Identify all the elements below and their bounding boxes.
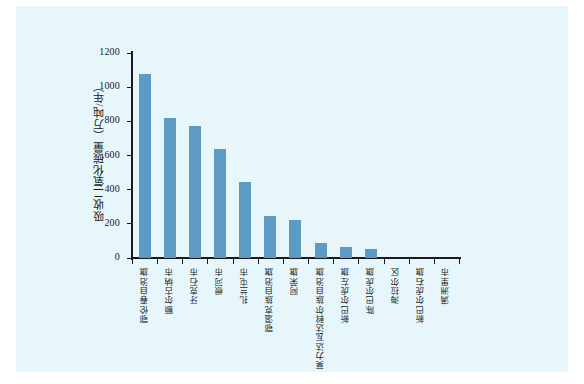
x-tick-mark (132, 259, 133, 264)
x-tick-label: 扎兰屯市 (233, 267, 258, 375)
x-tick-label: 满洲里市 (434, 267, 459, 375)
bar-slot (333, 53, 358, 258)
x-tick-label-text: 阿荣旗 (291, 267, 300, 295)
x-tick-label-text: 新巴尔虎右旗 (417, 267, 426, 323)
x-tick-label: 海拉尔区 (384, 267, 409, 375)
x-axis-labels: 鄂伦春自治旗额尔古纳市牙克石市根河市扎兰屯市鄂温克族自治旗阿荣旗莫力达瓦达斡尔族… (132, 267, 459, 377)
y-tick-label: 600 (104, 149, 120, 160)
x-tick-label: 牙克石市 (182, 267, 207, 375)
x-tick-mark (207, 259, 208, 264)
bar-slot (409, 53, 434, 258)
y-tick-label: 0 (115, 251, 120, 262)
bar[interactable] (214, 149, 226, 258)
x-axis-ticks (132, 259, 459, 264)
x-tick-label: 陈巴尔虎旗 (358, 267, 383, 375)
x-tick-label: 阿荣旗 (283, 267, 308, 375)
bar-slot (358, 53, 383, 258)
x-tick-label: 额尔古纳市 (157, 267, 182, 375)
x-tick-label-text: 满洲里市 (442, 267, 451, 304)
bar-slot (233, 53, 258, 258)
bar-slot (434, 53, 459, 258)
x-tick-mark (258, 259, 259, 264)
y-tick-label: 200 (104, 217, 120, 228)
bar-slot (308, 53, 333, 258)
bar-slot (207, 53, 232, 258)
x-tick-mark (283, 259, 284, 264)
bar[interactable] (289, 220, 301, 258)
x-tick-mark (308, 259, 309, 264)
x-tick-mark (384, 259, 385, 264)
x-tick-label: 莫力达瓦达斡尔族自治旗 (308, 267, 333, 375)
x-tick-label: 鄂温克族自治旗 (258, 267, 283, 375)
bar[interactable] (340, 247, 352, 258)
bar-slot (283, 53, 308, 258)
x-tick-label-text: 新巴尔虎左旗 (341, 267, 350, 323)
x-tick-label-text: 根河市 (216, 267, 225, 295)
x-tick-label-text: 陈巴尔虎旗 (366, 267, 375, 314)
x-tick-mark (157, 259, 158, 264)
bar[interactable] (365, 249, 377, 258)
bar[interactable] (139, 74, 151, 259)
x-tick-label: 新巴尔虎右旗 (409, 267, 434, 375)
x-tick-mark (409, 259, 410, 264)
x-tick-label-text: 莫力达瓦达斡尔族自治旗 (316, 267, 325, 369)
x-tick-label-text: 额尔古纳市 (165, 267, 174, 314)
bar[interactable] (164, 118, 176, 258)
x-tick-label-text: 鄂温克族自治旗 (266, 267, 275, 332)
bar-slot (258, 53, 283, 258)
x-tick-label: 根河市 (207, 267, 232, 375)
bar[interactable] (315, 243, 327, 258)
x-tick-mark (182, 259, 183, 264)
y-tick-label: 1200 (99, 46, 120, 57)
x-tick-label-text: 鄂伦春自治旗 (140, 267, 149, 323)
x-tick-label-text: 海拉尔区 (392, 267, 401, 304)
bars-layer (132, 53, 459, 258)
bar[interactable] (239, 182, 251, 258)
x-tick-mark (333, 259, 334, 264)
x-tick-mark (233, 259, 234, 264)
bar[interactable] (189, 126, 201, 258)
x-tick-label: 鄂伦春自治旗 (132, 267, 157, 375)
bar-slot (384, 53, 409, 258)
bar-slot (182, 53, 207, 258)
x-tick-mark (358, 259, 359, 264)
bar-slot (157, 53, 182, 258)
y-tick-label: 800 (104, 114, 120, 125)
bar[interactable] (264, 216, 276, 258)
bar-slot (132, 53, 157, 258)
x-tick-label-text: 扎兰屯市 (241, 267, 250, 304)
x-tick-label-text: 牙克石市 (190, 267, 199, 304)
x-tick-label: 新巴尔虎左旗 (333, 267, 358, 375)
x-tick-mark (459, 259, 460, 264)
y-tick-label: 400 (104, 183, 120, 194)
x-tick-mark (434, 259, 435, 264)
y-tick-label: 1000 (99, 80, 120, 91)
chart-figure-panel: 吸收二氧化碳量（万吨/年） 120010008006004002000 鄂伦春自… (16, 6, 568, 372)
